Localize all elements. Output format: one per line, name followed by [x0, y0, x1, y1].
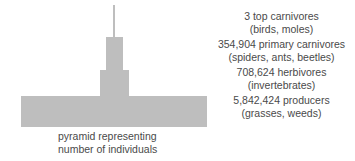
legend-entry-herbivores: 708,624 herbivores (invertebrates) — [208, 66, 355, 92]
trophic-level-legend: 3 top carnivores (birds, moles) 354,904 … — [208, 0, 355, 161]
legend-entry-top-carnivores: 3 top carnivores (birds, moles) — [208, 10, 355, 36]
legend-entry-producers: 5,842,424 producers (grasses, weeds) — [208, 94, 355, 120]
legend-examples-herbivores: (invertebrates) — [208, 79, 355, 92]
legend-count-primary-carnivores: 354,904 primary carnivores — [208, 38, 355, 51]
pyramid-tier-producers — [21, 96, 207, 127]
legend-entry-primary-carnivores: 354,904 primary carnivores (spiders, ant… — [208, 38, 355, 64]
pyramid-tier-top-carnivores — [113, 5, 115, 37]
legend-count-top-carnivores: 3 top carnivores — [208, 10, 355, 23]
pyramid-caption-line-2: number of individuals — [58, 143, 218, 156]
legend-examples-producers: (grasses, weeds) — [208, 107, 355, 120]
ecological-pyramid-figure: pyramid representing number of individua… — [0, 0, 355, 161]
legend-count-herbivores: 708,624 herbivores — [208, 66, 355, 79]
legend-count-producers: 5,842,424 producers — [208, 94, 355, 107]
legend-examples-primary-carnivores: (spiders, ants, beetles) — [208, 51, 355, 64]
pyramid-caption: pyramid representing number of individua… — [58, 130, 218, 156]
pyramid-caption-line-1: pyramid representing — [58, 130, 218, 143]
legend-examples-top-carnivores: (birds, moles) — [208, 23, 355, 36]
pyramid-tier-herbivores — [100, 70, 129, 96]
pyramid-tier-primary-carnivores — [106, 37, 123, 70]
